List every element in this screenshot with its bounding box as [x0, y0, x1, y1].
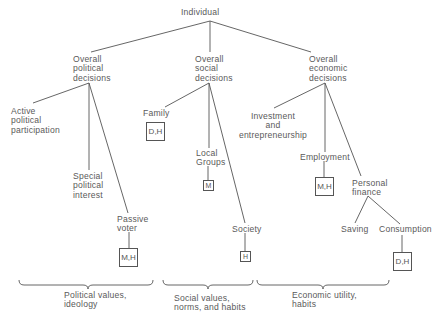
- node-investment: Investment and entrepreneurship: [238, 112, 308, 140]
- group-braces: [19, 280, 389, 289]
- node-overall-political: Overall political decisions: [73, 55, 111, 83]
- node-line: voter: [117, 224, 149, 233]
- node-overall-economic: Overall economic decisions: [309, 55, 347, 83]
- node-label: Family: [143, 108, 170, 118]
- node-line: decisions: [195, 74, 233, 83]
- node-special-political: Special political interest: [73, 172, 103, 200]
- group-line: ideology: [64, 300, 127, 309]
- group-label-political: Political values, ideology: [64, 291, 127, 310]
- node-line: Groups: [196, 158, 225, 167]
- node-label: Consumption: [379, 224, 432, 234]
- node-label: Employment: [300, 152, 350, 162]
- tag-box-passive: M,H: [119, 248, 138, 267]
- node-passive-voter: Passive voter: [117, 215, 149, 234]
- node-line: entrepreneurship: [238, 131, 308, 140]
- tag-box-local: M: [203, 180, 214, 191]
- tag-box-employment: M,H: [315, 177, 334, 196]
- tag-box-family: D,H: [146, 122, 165, 141]
- node-local-groups: Local Groups: [196, 149, 225, 168]
- group-line: norms, and habits: [174, 303, 246, 312]
- node-label: Individual: [181, 7, 219, 17]
- group-line: habits: [292, 300, 357, 309]
- tag-box-society: H: [240, 251, 251, 262]
- node-line: decisions: [73, 74, 111, 83]
- node-society: Society: [232, 225, 262, 234]
- node-overall-social: Overall social decisions: [195, 55, 233, 83]
- tag-box-consumption: D,H: [393, 252, 412, 271]
- node-label: Saving: [341, 224, 368, 234]
- group-label-economic: Economic utility, habits: [292, 291, 357, 310]
- node-saving: Saving: [341, 225, 368, 234]
- node-line: decisions: [309, 74, 347, 83]
- node-label: Society: [232, 224, 262, 234]
- node-individual: Individual: [181, 8, 219, 17]
- node-line: finance: [352, 188, 388, 197]
- node-personal-finance: Personal finance: [352, 179, 388, 198]
- node-family: Family: [143, 109, 170, 118]
- group-label-social: Social values, norms, and habits: [174, 294, 246, 313]
- node-employment: Employment: [300, 153, 350, 162]
- node-line: interest: [73, 191, 103, 200]
- node-active-political: Active political participation: [11, 107, 60, 135]
- node-consumption: Consumption: [379, 225, 432, 234]
- node-line: participation: [11, 126, 60, 135]
